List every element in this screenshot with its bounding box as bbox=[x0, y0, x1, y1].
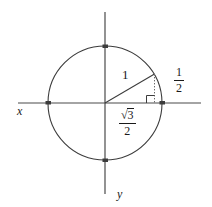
tick-left-intercept bbox=[46, 101, 52, 105]
square-root-icon: √3 bbox=[121, 108, 134, 122]
radical-overbar bbox=[127, 108, 134, 109]
right-angle-marker bbox=[147, 96, 155, 104]
figure-canvas bbox=[0, 0, 212, 207]
tick-top-intercept bbox=[103, 45, 109, 49]
fraction-numerator: √3 bbox=[119, 108, 136, 122]
fraction-numerator: 1 bbox=[174, 66, 184, 79]
fraction-one-half: 1 2 bbox=[174, 66, 184, 94]
radical-sign: √ bbox=[121, 108, 128, 122]
adjacent-side-label: √3 2 bbox=[119, 108, 136, 138]
x-axis-label: x bbox=[17, 105, 22, 117]
tick-bottom-intercept bbox=[103, 159, 109, 163]
opposite-side-label: 1 2 bbox=[174, 66, 184, 95]
radicand: 3 bbox=[128, 108, 134, 122]
tick-right-intercept bbox=[160, 101, 166, 105]
fraction-denominator: 2 bbox=[174, 82, 184, 95]
y-axis-label: y bbox=[117, 188, 122, 200]
fraction-denominator: 2 bbox=[119, 125, 136, 138]
radius-line bbox=[105, 74, 155, 103]
unit-circle-figure: x y 1 1 2 √3 2 bbox=[0, 0, 212, 207]
fraction-sqrt3-over-2: √3 2 bbox=[119, 108, 136, 137]
radius-length-label: 1 bbox=[122, 68, 129, 81]
